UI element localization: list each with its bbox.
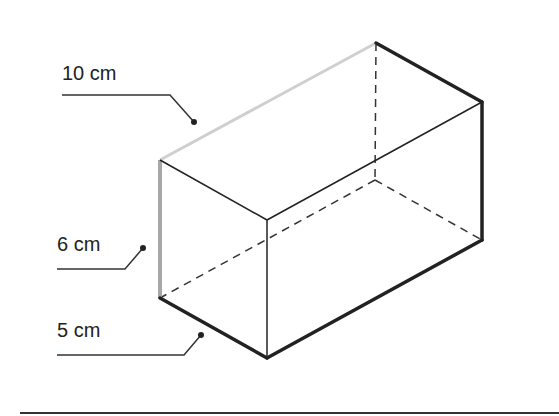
edge-top-front [160,160,267,220]
height-leader-dot [140,245,146,251]
edge-back-top [376,43,482,102]
edge-bottom-right [267,240,482,358]
width-edge [160,298,267,358]
hidden-edge-right [375,180,482,240]
height-label: 6 cm [57,234,100,254]
length-leader-dot [191,119,197,125]
visible-thick-edges [160,43,482,358]
hidden-edges [160,43,482,298]
width-label: 5 cm [57,320,100,340]
length-leader [62,95,194,122]
visible-thin-edges [160,102,482,358]
leader-lines [57,95,201,355]
width-leader-dot [198,332,204,338]
length-label: 10 cm [62,63,116,83]
edge-top-right [267,102,482,220]
length-edge-highlight [160,43,376,160]
